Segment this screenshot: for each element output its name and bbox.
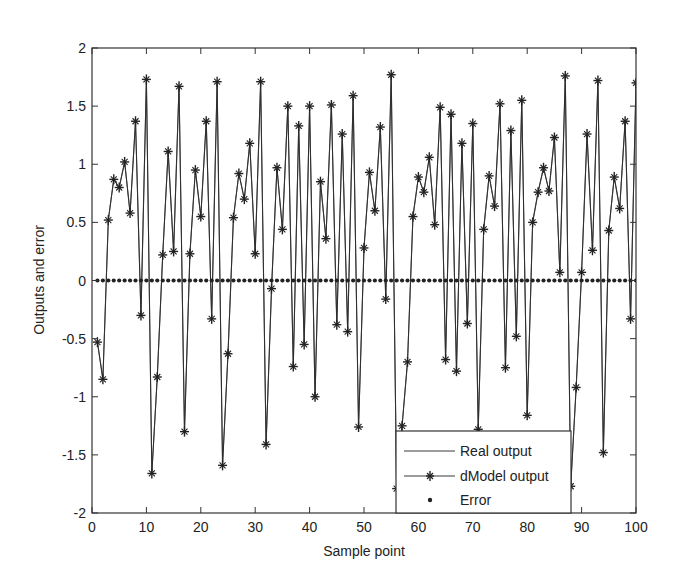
error-dot	[269, 278, 273, 282]
error-dot	[264, 278, 268, 282]
error-dot	[346, 278, 350, 282]
error-dot	[161, 278, 165, 282]
legend-label: Error	[460, 492, 491, 508]
error-dot	[193, 278, 197, 282]
error-dot	[231, 278, 235, 282]
error-dot	[308, 278, 312, 282]
x-tick-label: 70	[465, 519, 481, 535]
error-dot	[340, 278, 344, 282]
error-dot	[367, 278, 371, 282]
error-dot	[210, 278, 214, 282]
error-dot	[444, 278, 448, 282]
error-dot	[465, 278, 469, 282]
error-dot	[601, 278, 605, 282]
y-axis-tick-labels: -2-1.5-1-0.500.511.52	[62, 40, 86, 521]
error-dot	[471, 278, 475, 282]
error-dot	[324, 278, 328, 282]
error-dot	[302, 278, 306, 282]
error-dot	[139, 278, 143, 282]
error-dot	[395, 278, 399, 282]
error-dot	[492, 278, 496, 282]
error-dot	[101, 278, 105, 282]
error-dot	[373, 278, 377, 282]
y-tick-label: 0	[78, 273, 86, 289]
error-dot	[106, 278, 110, 282]
error-dot	[280, 278, 284, 282]
error-dot	[362, 278, 366, 282]
error-dot	[405, 278, 409, 282]
error-dot	[552, 278, 556, 282]
error-dot	[536, 278, 540, 282]
error-dot	[259, 278, 263, 282]
y-tick-label: -1.5	[62, 447, 86, 463]
legend: Real output dModel output Error	[396, 431, 571, 513]
y-tick-label: -1	[74, 389, 87, 405]
error-dot	[487, 278, 491, 282]
x-tick-label: 100	[624, 519, 648, 535]
error-dot	[558, 278, 562, 282]
x-axis-title: Sample point	[323, 543, 405, 559]
error-dot	[454, 278, 458, 282]
legend-label: dModel output	[460, 468, 549, 484]
x-tick-label: 90	[574, 519, 590, 535]
x-tick-label: 50	[356, 519, 372, 535]
error-dot	[166, 278, 170, 282]
error-dot	[128, 278, 132, 282]
error-dot	[329, 278, 333, 282]
error-dot	[155, 278, 159, 282]
x-tick-label: 80	[519, 519, 535, 535]
error-dot	[411, 278, 415, 282]
error-dot	[612, 278, 616, 282]
error-dot	[389, 278, 393, 282]
error-dot	[509, 278, 513, 282]
error-dot	[242, 278, 246, 282]
error-dot	[182, 278, 186, 282]
error-dot	[248, 278, 252, 282]
error-dot	[177, 278, 181, 282]
dot-marker-icon	[428, 498, 432, 502]
x-axis-tick-labels: 0102030405060708090100	[88, 519, 648, 535]
error-dot	[460, 278, 464, 282]
error-dot	[476, 278, 480, 282]
y-tick-label: 2	[78, 40, 86, 56]
error-dot	[253, 278, 257, 282]
error-dot	[384, 278, 388, 282]
error-dot	[607, 278, 611, 282]
error-dot	[427, 278, 431, 282]
error-dot	[520, 278, 524, 282]
error-dot	[313, 278, 317, 282]
error-dot	[503, 278, 507, 282]
error-dot	[596, 278, 600, 282]
error-dot	[356, 278, 360, 282]
error-dot	[547, 278, 551, 282]
error-dot	[623, 278, 627, 282]
error-dot	[215, 278, 219, 282]
error-dot	[580, 278, 584, 282]
error-dot	[275, 278, 279, 282]
x-tick-label: 0	[88, 519, 96, 535]
error-dot	[123, 278, 127, 282]
error-dot	[286, 278, 290, 282]
y-tick-label: -0.5	[62, 331, 86, 347]
error-dot	[172, 278, 176, 282]
error-dot	[297, 278, 301, 282]
error-dot	[133, 278, 137, 282]
error-dot	[112, 278, 116, 282]
error-dot	[514, 278, 518, 282]
error-dot	[188, 278, 192, 282]
error-dot	[226, 278, 230, 282]
error-dot	[541, 278, 545, 282]
legend-label: Real output	[460, 443, 532, 459]
error-dot	[569, 278, 573, 282]
error-dot	[351, 278, 355, 282]
error-dot	[335, 278, 339, 282]
error-dot	[531, 278, 535, 282]
x-tick-label: 60	[411, 519, 427, 535]
error-dot	[590, 278, 594, 282]
error-dot	[422, 278, 426, 282]
error-dot	[199, 278, 203, 282]
y-tick-label: 1.5	[67, 98, 87, 114]
x-tick-label: 40	[302, 519, 318, 535]
error-dot	[449, 278, 453, 282]
error-dot	[204, 278, 208, 282]
